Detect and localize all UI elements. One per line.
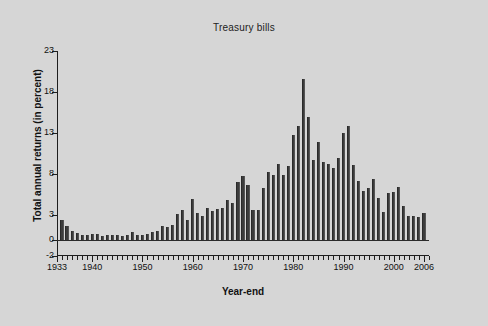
x-tick-mark [399,256,400,260]
bar [141,235,144,240]
bar [377,198,380,240]
bar [407,216,410,240]
bar [201,216,204,240]
bar [116,235,119,240]
bar [236,182,239,239]
x-tick-mark [379,256,380,260]
y-axis-title: Total annual returns (in percent) [32,46,43,246]
x-tick-mark [429,256,430,260]
x-tick-mark [308,256,309,260]
x-tick-mark [339,256,340,260]
bar [176,214,179,239]
bar [131,232,134,239]
x-tick-label: 1990 [334,262,354,272]
x-tick-mark [62,256,63,260]
x-tick-label: 2006 [414,262,434,272]
bar [101,236,104,240]
bar [292,135,295,239]
x-tick-mark [137,256,138,260]
bar [161,226,164,240]
x-tick-mark [364,256,365,260]
x-tick-mark [238,256,239,260]
chart-figure: Treasury bills Total annual returns (in … [0,0,488,326]
x-tick-mark [218,256,219,260]
bar [251,210,254,240]
y-tick-label: -2 [46,250,54,260]
x-tick-mark [228,256,229,260]
x-tick-mark [208,256,209,260]
x-tick-mark [374,256,375,260]
x-tick-mark [213,256,214,260]
bar [402,206,405,240]
bar [76,233,79,240]
x-tick-mark [419,256,420,260]
bar [191,199,194,240]
bar [221,208,224,239]
x-tick-mark [153,256,154,260]
x-tick-mark [87,256,88,260]
bar [317,142,320,240]
x-tick-mark [349,256,350,260]
x-tick-mark [328,256,329,260]
x-tick-mark [323,256,324,260]
bar [211,211,214,240]
y-tick-label: 18 [44,86,54,96]
bar [362,191,365,239]
x-tick-label: 1980 [283,262,303,272]
x-tick-mark [163,256,164,260]
x-tick-mark [82,256,83,260]
x-tick-mark [409,256,410,260]
bar [186,220,189,240]
x-tick-mark [158,256,159,260]
bar [81,235,84,240]
bar [246,185,249,240]
x-tick-mark [147,256,148,260]
x-tick-mark [278,256,279,260]
x-tick-mark [369,256,370,260]
bar [332,168,335,239]
bar [111,235,114,240]
x-tick-mark [97,256,98,260]
bar [196,213,199,239]
chart-title: Treasury bills [0,22,488,33]
bar [387,193,390,240]
bar [302,79,305,240]
x-tick-mark [168,256,169,260]
y-tick-label: 0 [49,234,54,244]
bar [241,176,244,239]
bar [277,164,280,239]
bar [282,175,285,240]
bar [372,179,375,240]
x-tick-mark [258,256,259,260]
bar [86,235,89,240]
bar [216,209,219,239]
x-tick-mark [359,256,360,260]
x-tick-mark [283,256,284,260]
bar [262,188,265,240]
x-axis-title: Year-end [57,286,429,297]
bar [322,162,325,240]
x-tick-mark [203,256,204,260]
x-tick-mark [67,256,68,260]
bar [151,232,154,239]
x-tick-mark [107,256,108,260]
bar [156,231,159,239]
x-tick-mark [248,256,249,260]
x-tick-mark [404,256,405,260]
x-tick-mark [223,256,224,260]
y-tick-label: 8 [49,168,54,178]
x-tick-mark [298,256,299,260]
bar [347,126,350,240]
y-axis-line [57,51,58,256]
bar [71,231,74,239]
x-tick-mark [117,256,118,260]
x-tick-mark [253,256,254,260]
bar [267,172,270,240]
x-tick-mark [333,256,334,260]
bar [422,213,425,239]
bar [272,175,275,240]
bar [327,164,330,239]
y-tick-label: 23 [44,45,54,55]
x-tick-mark [233,256,234,260]
bar [106,235,109,240]
